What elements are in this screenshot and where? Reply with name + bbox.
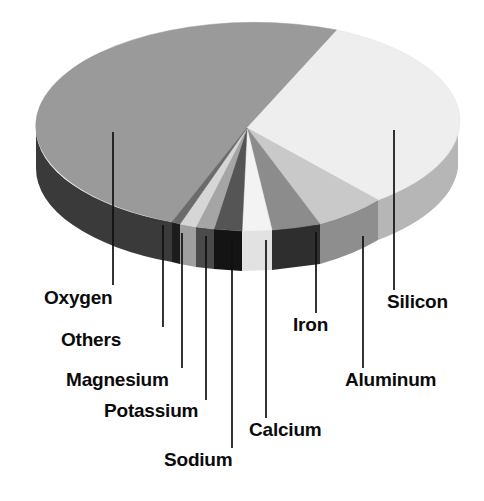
label-aluminum: Aluminum [345,370,436,389]
slice-side-sodium [214,229,242,271]
label-calcium: Calcium [249,420,322,439]
label-magnesium: Magnesium [66,370,169,389]
label-iron: Iron [293,315,328,334]
slice-side-iron [272,224,320,270]
slice-side-potassium [196,227,214,269]
label-oxygen: Oxygen [44,288,113,307]
label-potassium: Potassium [104,401,198,420]
label-others: Others [61,330,121,349]
pie-chart-graphic [0,0,484,501]
pie-chart-figure: Oxygen Others Magnesium Potassium Sodium… [0,0,484,501]
slice-side-others [172,222,180,264]
label-sodium: Sodium [164,450,232,469]
label-silicon: Silicon [387,292,448,311]
slice-side-calcium [242,230,272,271]
